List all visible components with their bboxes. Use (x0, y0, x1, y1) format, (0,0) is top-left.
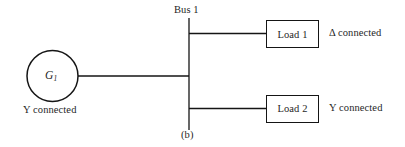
load2-connection-note: Y connected (329, 102, 382, 114)
single-line-diagram-figure: G1 Bus 1 Y connected Load 1 Δ connected … (0, 0, 405, 147)
load1-connection-note: Δ connected (329, 27, 381, 39)
load1-label: Load 1 (277, 29, 307, 40)
generator-symbol-subscript: 1 (54, 74, 58, 83)
diagram-wires (0, 0, 405, 147)
load2-box: Load 2 (266, 95, 319, 123)
generator-symbol-letter: G (45, 69, 53, 81)
generator-symbol-label: G1 (45, 69, 57, 81)
panel-caption: (b) (181, 129, 194, 141)
bus-label: Bus 1 (174, 4, 199, 16)
generator-connection-note: Y connected (23, 104, 76, 116)
load2-label: Load 2 (277, 103, 307, 114)
load1-box: Load 1 (266, 20, 319, 48)
